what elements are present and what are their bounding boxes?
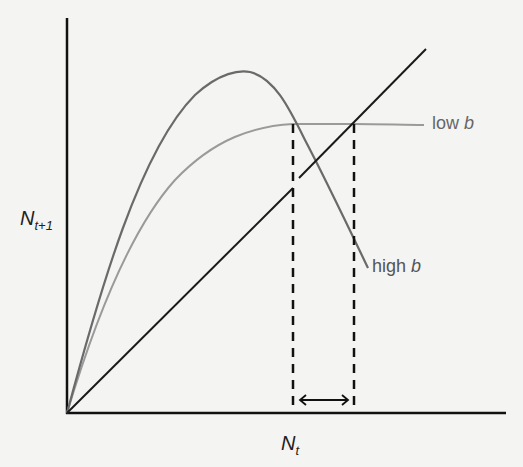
- low-b-label: low b: [432, 113, 474, 134]
- y-axis-label: Nt+1: [20, 207, 53, 233]
- x-axis-label: Nt: [281, 432, 299, 458]
- low-b-curve: [67, 124, 424, 413]
- high-b-label: high b: [372, 256, 421, 277]
- double-arrow-icon: [300, 395, 348, 405]
- replacement-line-upper: [299, 49, 426, 178]
- replacement-line-lower: [67, 188, 293, 413]
- high-b-curve: [67, 71, 368, 413]
- recruitment-diagram: [0, 0, 523, 467]
